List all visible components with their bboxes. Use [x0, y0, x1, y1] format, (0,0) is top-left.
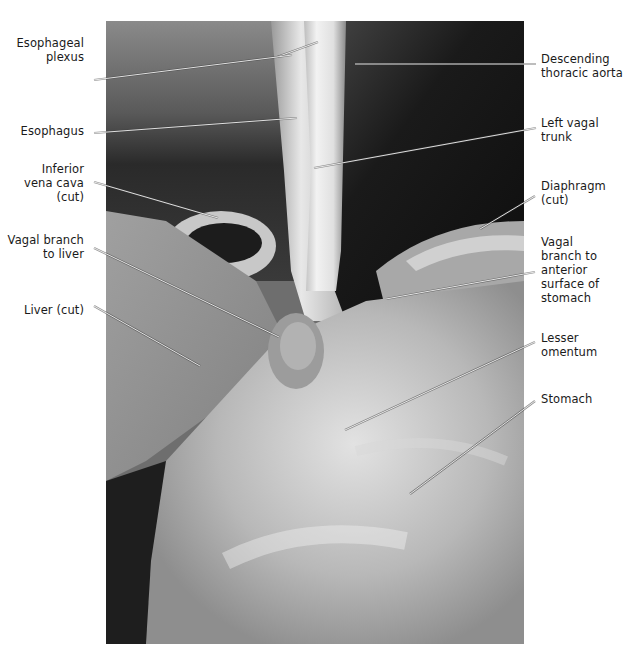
- label-inferior-vena-cava: Inferior vena cava (cut): [0, 162, 84, 204]
- label-stomach: Stomach: [541, 392, 592, 406]
- label-esophageal-plexus: Esophageal plexus: [0, 36, 84, 64]
- label-left-vagal-trunk: Left vagal trunk: [541, 116, 599, 144]
- label-descending-thoracic-aorta: Descending thoracic aorta: [541, 52, 623, 80]
- label-vagal-branch-to-liver: Vagal branch to liver: [0, 233, 84, 261]
- label-vagal-branch-anterior-stomach: Vagal branch to anterior surface of stom…: [541, 235, 599, 305]
- label-lesser-omentum: Lesser omentum: [541, 331, 597, 359]
- label-liver-cut: Liver (cut): [0, 303, 84, 317]
- photo-approximation: [106, 21, 524, 644]
- label-diaphragm-cut: Diaphragm (cut): [541, 179, 606, 207]
- label-esophagus: Esophagus: [0, 124, 84, 138]
- anatomy-figure: Esophageal plexus Esophagus Inferior ven…: [0, 0, 631, 656]
- dissection-photograph: [106, 21, 524, 644]
